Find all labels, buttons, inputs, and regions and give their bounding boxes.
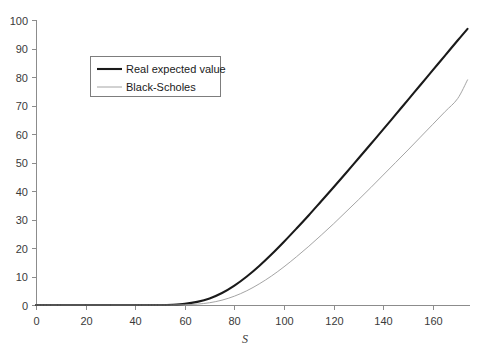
y-tick-label: 80: [16, 72, 28, 84]
x-tick-label: 100: [275, 315, 293, 327]
x-tick-label: 140: [374, 315, 392, 327]
x-axis-title: S: [242, 332, 248, 346]
x-tick-label: 0: [33, 315, 39, 327]
x-tick-label: 120: [325, 315, 343, 327]
x-tick-label: 20: [80, 315, 92, 327]
x-tick-label: 40: [129, 315, 141, 327]
y-tick-label: 10: [16, 271, 28, 283]
line-chart: 0102030405060708090100 02040608010012014…: [0, 0, 478, 352]
y-tick-label: 100: [10, 15, 28, 27]
chart-legend: Real expected valueBlack-Scholes: [91, 57, 226, 97]
y-tick-label: 30: [16, 214, 28, 226]
y-tick-label: 40: [16, 186, 28, 198]
y-axis: 0102030405060708090100: [10, 15, 37, 312]
y-tick-label: 0: [22, 300, 28, 312]
y-tick-label: 60: [16, 129, 28, 141]
x-tick-label: 80: [228, 315, 240, 327]
x-tick-label: 160: [424, 315, 442, 327]
x-tick-label: 60: [179, 315, 191, 327]
chart-container: 0102030405060708090100 02040608010012014…: [0, 0, 478, 352]
y-tick-label: 70: [16, 100, 28, 112]
legend-label: Black-Scholes: [126, 81, 196, 93]
y-tick-label: 20: [16, 243, 28, 255]
y-tick-label: 50: [16, 157, 28, 169]
y-tick-label: 90: [16, 43, 28, 55]
x-axis: 020406080100120140160: [33, 305, 470, 327]
legend-label: Real expected value: [126, 63, 226, 75]
